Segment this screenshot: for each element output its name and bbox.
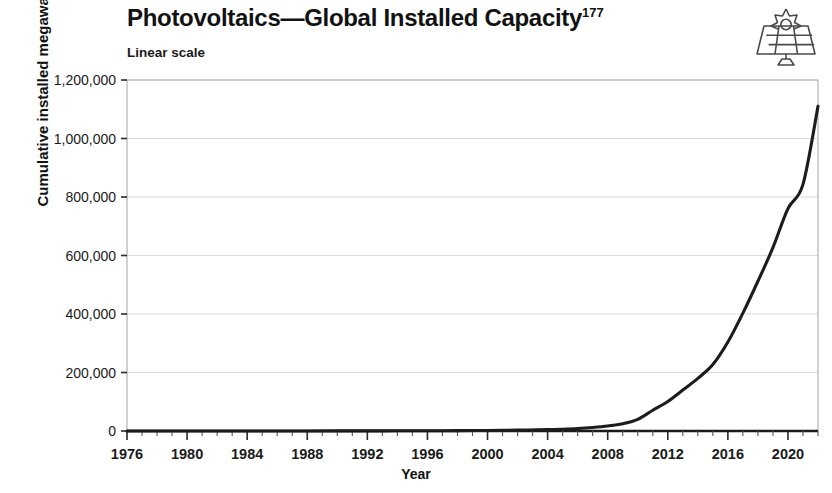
x-axis-ticks: 1976198019841988199219962000200420082012… [111,431,818,462]
x-tick-label: 1996 [411,446,443,462]
x-tick-label: 1988 [291,446,323,462]
y-tick-label: 1,200,000 [54,72,116,88]
chart-figure: Photovoltaics—Global Installed Capacity1… [0,0,832,493]
x-tick-label: 2008 [592,446,624,462]
gridlines [127,80,818,373]
x-tick-label: 1980 [171,446,203,462]
x-tick-label: 1984 [231,446,263,462]
y-axis-ticks: 0200,000400,000600,000800,0001,000,0001,… [54,72,127,439]
data-series [127,106,818,431]
x-tick-label: 2016 [712,446,744,462]
series-line [127,106,818,431]
plot-area: 0200,000400,000600,000800,0001,000,0001,… [0,0,832,493]
y-tick-label: 0 [108,423,116,439]
x-tick-label: 1976 [111,446,143,462]
y-tick-label: 1,000,000 [54,131,116,147]
x-tick-label: 2000 [471,446,503,462]
y-tick-label: 600,000 [65,248,116,264]
y-tick-label: 400,000 [65,306,116,322]
x-tick-label: 2012 [652,446,684,462]
x-tick-label: 2020 [772,446,804,462]
y-tick-label: 200,000 [65,365,116,381]
y-tick-label: 800,000 [65,189,116,205]
x-tick-label: 1992 [351,446,383,462]
x-tick-label: 2004 [531,446,563,462]
